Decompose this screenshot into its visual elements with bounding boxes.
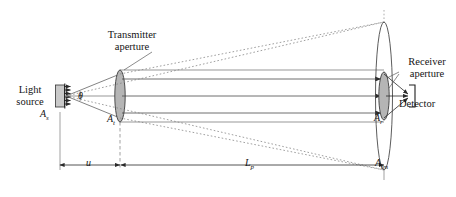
detector-label: Detector — [399, 98, 435, 110]
light-source-label: Light source — [6, 84, 54, 108]
transmitter-aperture-label: Transmitter aperture — [86, 29, 178, 53]
dimension-lp-label: Lp — [245, 157, 254, 172]
theta-label: θ — [78, 90, 83, 101]
collimated-rays — [122, 79, 381, 113]
figure-canvas: Light source As θ Transmitter aperture A… — [0, 0, 456, 197]
area-image-label: Aim — [375, 157, 388, 172]
receiver-aperture-label: Receiver aperture — [399, 56, 455, 80]
dimension-u-label: u — [86, 157, 91, 168]
area-source-label: As — [40, 108, 49, 123]
area-receiver-label: Ar — [374, 112, 383, 127]
area-transmitter-label: At — [107, 113, 115, 128]
